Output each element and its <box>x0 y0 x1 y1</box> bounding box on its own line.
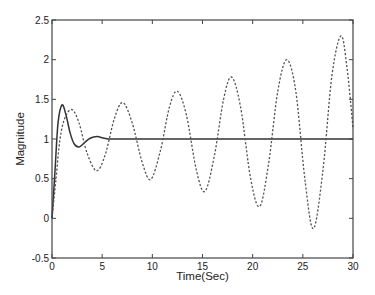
y-tick-label: 2.5 <box>35 15 49 26</box>
x-tick-label: 5 <box>99 261 105 272</box>
y-tick-label: 1 <box>43 134 49 145</box>
y-tick-label: 2 <box>43 54 49 65</box>
y-tick-label: 0.5 <box>35 173 49 184</box>
x-tick-label: 10 <box>147 261 159 272</box>
y-tick-label: -0.5 <box>32 253 50 264</box>
x-tick-label: 0 <box>49 261 55 272</box>
x-tick-label: 25 <box>297 261 309 272</box>
y-tick-label: 1.5 <box>35 94 49 105</box>
y-axis-label: Magnitude <box>14 112 26 166</box>
y-tick-label: 0 <box>43 213 49 224</box>
x-tick-label: 30 <box>347 261 359 272</box>
x-tick-label: 20 <box>247 261 259 272</box>
x-axis-label: Time(Sec) <box>176 270 229 282</box>
line-chart: 051015202530 -0.500.511.522.5 Time(Sec) … <box>0 0 375 295</box>
